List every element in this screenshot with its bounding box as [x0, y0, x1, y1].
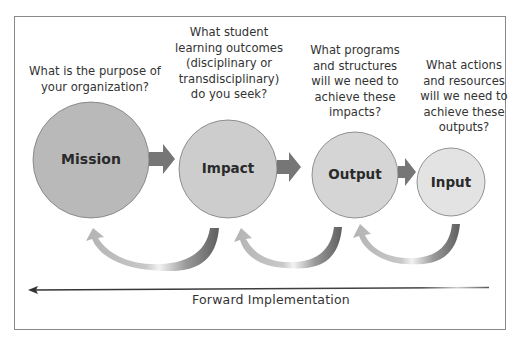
question-line: learning outcomes [170, 41, 288, 57]
question-line: (disciplinary or [170, 56, 288, 72]
question-line: impacts? [300, 105, 410, 121]
question-line: What actions [410, 58, 518, 74]
question-line: and structures [300, 59, 410, 75]
return-arrow-input-to-output-icon [353, 224, 460, 264]
question-line: will we need to [300, 74, 410, 90]
return-arrow-output-to-impact-icon [234, 227, 342, 268]
return-arrow-impact-to-mission-icon [86, 228, 219, 271]
question-line: transdisciplinary) [170, 72, 288, 88]
question-line: do you seek? [170, 87, 288, 103]
question-line: outputs? [410, 120, 518, 136]
question-line: achieve these [410, 105, 518, 121]
arrow-impact-to-output-icon [277, 152, 301, 182]
output-label: Output [305, 166, 405, 182]
input-label: Input [401, 174, 501, 190]
question-line: What programs [300, 43, 410, 59]
forward-implementation-label: Forward Implementation [192, 292, 350, 307]
mission-label: Mission [41, 151, 141, 167]
question-line: What is the purpose of [20, 64, 170, 80]
arrow-mission-to-impact-icon [149, 144, 175, 174]
input-question: What actions and resources will we need … [410, 58, 518, 136]
output-question: What programs and structures will we nee… [300, 43, 410, 121]
mission-question: What is the purpose of your organization… [20, 64, 170, 95]
question-line: What student [170, 25, 288, 41]
question-line: and resources [410, 74, 518, 90]
question-line: your organization? [20, 80, 170, 96]
question-line: achieve these [300, 90, 410, 106]
question-line: will we need to [410, 89, 518, 105]
impact-label: Impact [178, 160, 278, 176]
impact-question: What student learning outcomes (discipli… [170, 25, 288, 103]
